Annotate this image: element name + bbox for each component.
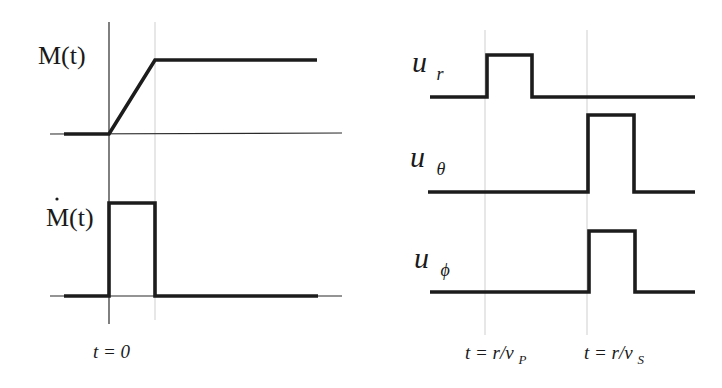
left-panel: M(t) M(t) t = 0 bbox=[38, 22, 342, 362]
p-arrival-subscript: P bbox=[517, 352, 526, 367]
right-panel: u r u θ u ϕ t = r/v P t = r/v bbox=[410, 30, 695, 367]
seismic-source-diagram: M(t) M(t) t = 0 u r u bbox=[0, 0, 722, 388]
ur-symbol: u bbox=[412, 45, 427, 78]
p-arrival-label: t = r/v P bbox=[465, 342, 526, 367]
utheta-label: u θ bbox=[410, 140, 446, 179]
moment-rate-curve bbox=[64, 203, 318, 296]
ur-trace: u r bbox=[412, 45, 695, 97]
moment-rate-plot: M(t) bbox=[46, 197, 342, 296]
moment-rate-label: M(t) bbox=[46, 203, 94, 232]
derivative-dot bbox=[55, 197, 58, 200]
s-arrival-label: t = r/v S bbox=[584, 342, 644, 367]
s-arrival-text: t = r/v bbox=[584, 342, 633, 363]
uphi-signal bbox=[430, 231, 695, 292]
p-arrival-text: t = r/v bbox=[465, 342, 514, 363]
uphi-trace: u ϕ bbox=[414, 231, 695, 292]
moment-label: M(t) bbox=[38, 41, 86, 70]
utheta-trace: u θ bbox=[410, 115, 695, 192]
t0-label: t = 0 bbox=[93, 341, 131, 362]
utheta-subscript: θ bbox=[437, 159, 446, 179]
ur-signal bbox=[430, 55, 695, 97]
uphi-symbol: u bbox=[414, 241, 429, 274]
utheta-symbol: u bbox=[410, 140, 425, 173]
s-arrival-subscript: S bbox=[637, 352, 644, 367]
ur-label: u r bbox=[412, 45, 445, 84]
moment-curve bbox=[64, 60, 317, 134]
utheta-signal bbox=[428, 115, 695, 192]
moment-plot: M(t) bbox=[38, 41, 342, 134]
ur-subscript: r bbox=[437, 64, 445, 84]
uphi-subscript: ϕ bbox=[441, 260, 450, 280]
uphi-label: u ϕ bbox=[414, 241, 450, 280]
